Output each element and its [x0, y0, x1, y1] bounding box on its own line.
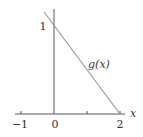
y-tick-label-1: 1	[40, 20, 47, 33]
curve-label: g(x)	[88, 58, 110, 71]
x-tick-label-neg1: −1	[12, 118, 28, 131]
x-axis-label: x	[130, 107, 137, 120]
x-tick-label-0: 0	[52, 118, 59, 131]
x-tick-label-2: 2	[117, 118, 124, 131]
chart: 1 −1 0 2 x g(x)	[0, 0, 143, 137]
